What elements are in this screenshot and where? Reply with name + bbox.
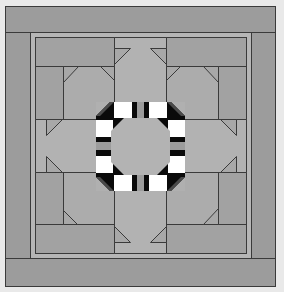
center-ring — [96, 102, 185, 191]
quilt-block-diagram — [0, 0, 284, 292]
